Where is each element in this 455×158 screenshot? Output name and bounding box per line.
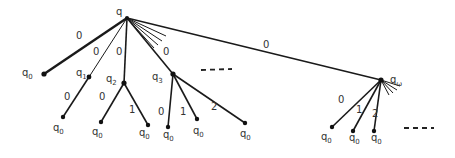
label-leaf: q0 (139, 127, 150, 141)
edge-label: 1 (180, 106, 186, 117)
label-leaf: q0 (371, 132, 382, 146)
edge-label: 0 (158, 106, 164, 117)
node-qomega (378, 77, 383, 82)
edge-label: 0 (64, 91, 70, 102)
label-leaf: q0 (349, 132, 360, 146)
edge-label: 0 (76, 30, 82, 41)
node-leaf (99, 120, 103, 124)
edge-root-q0 (44, 18, 127, 74)
node-q1 (87, 75, 92, 80)
node-root (125, 16, 129, 20)
label-q3: q3 (152, 71, 163, 85)
node-q2 (121, 80, 126, 85)
edge-label: 0 (93, 46, 99, 57)
label-leaf: q0 (163, 129, 174, 143)
node-leaf (243, 121, 247, 125)
label-leaf: q0 (321, 131, 332, 145)
label-leaf: q0 (92, 126, 103, 140)
edge-q2-q0b (124, 83, 148, 125)
label-qomega: qω (390, 74, 402, 88)
edge-label: 2 (372, 108, 378, 119)
node-leaf (195, 117, 199, 121)
label-q1: q1 (76, 67, 87, 81)
edge-root-q2 (124, 18, 127, 83)
edge-label: 1 (356, 104, 362, 115)
node-q0 (41, 71, 46, 76)
node-q3 (170, 71, 175, 76)
label-root: q (116, 6, 122, 17)
edge-label: 0 (116, 46, 122, 57)
edge-q2-q0a (101, 83, 124, 122)
edge-label: 0 (338, 94, 344, 105)
label-leaf: q0 (193, 125, 204, 139)
label-leaf: q0 (240, 128, 251, 142)
edge-label: 1 (129, 104, 135, 115)
node-leaf (146, 123, 150, 127)
edge-label: 2 (211, 101, 217, 112)
edge-label: 0 (99, 91, 105, 102)
tree-diagram: q q0 q1 q2 q3 qω q0 q0 q0 q0 q0 q0 q0 q0… (0, 0, 455, 158)
edge-label: 0 (263, 39, 269, 50)
edge-label: 0 (163, 46, 169, 57)
fan-edge (127, 18, 166, 36)
label-q2: q2 (106, 73, 117, 87)
edge-q3-q0a (168, 74, 173, 127)
node-leaf (330, 125, 334, 129)
label-q0: q0 (22, 67, 33, 81)
label-leaf: q0 (53, 122, 64, 136)
ellipsis-dashes (201, 69, 232, 70)
node-leaf (61, 115, 65, 119)
